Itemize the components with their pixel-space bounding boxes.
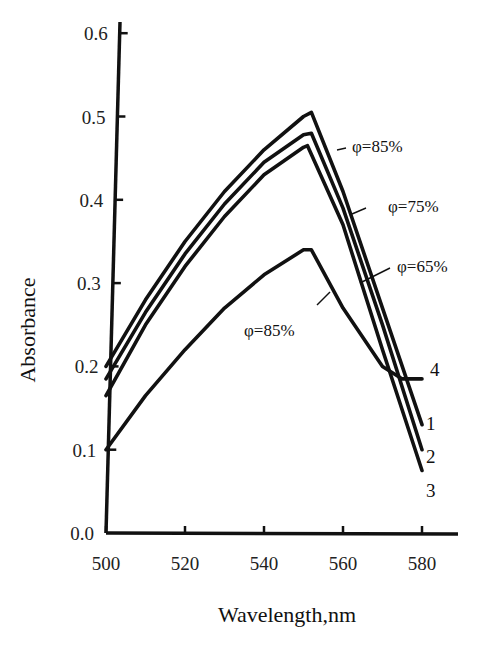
- curves: [106, 112, 422, 470]
- curve-3: [106, 146, 422, 471]
- y-axis-title: Absorbance: [15, 277, 40, 382]
- x-tick-label: 500: [92, 553, 121, 574]
- x-tick-label: 540: [250, 553, 279, 574]
- y-tick-label: 0.2: [75, 356, 99, 377]
- annotation-leader: [337, 148, 346, 150]
- curve-number-label: 1: [426, 413, 436, 434]
- x-tick-label: 520: [171, 553, 200, 574]
- phi-annotation: φ=85%: [352, 137, 403, 156]
- axes: 5005205405605800.00.10.20.30.40.50.6: [70, 22, 458, 574]
- y-tick-label: 0.6: [84, 23, 108, 44]
- curve-number-label: 2: [426, 446, 436, 467]
- x-axis-line: [106, 533, 458, 534]
- y-axis-line: [106, 22, 120, 533]
- annotation-leader: [352, 208, 366, 214]
- absorbance-chart: 5005205405605800.00.10.20.30.40.50.6 φ=8…: [0, 0, 477, 652]
- x-tick-label: 560: [329, 553, 358, 574]
- y-tick-label: 0.1: [73, 440, 97, 461]
- phi-annotation: φ=75%: [388, 197, 439, 216]
- x-axis-title: Wavelength,nm: [218, 602, 356, 627]
- y-tick-label: 0.4: [79, 190, 103, 211]
- curve-number-label: 3: [426, 480, 436, 501]
- y-tick-label: 0.5: [82, 107, 106, 128]
- x-tick-label: 580: [408, 553, 437, 574]
- curve-1: [106, 112, 422, 424]
- curve-number-label: 4: [430, 359, 440, 380]
- annotations: φ=85%φ=75%φ=65%φ=85%1234: [244, 137, 448, 501]
- phi-annotation: φ=85%: [244, 321, 295, 340]
- annotation-leader: [317, 292, 330, 305]
- curve-2: [106, 133, 422, 450]
- y-tick-label: 0.3: [77, 273, 101, 294]
- phi-annotation: φ=65%: [397, 257, 448, 276]
- y-tick-label: 0.0: [70, 523, 94, 544]
